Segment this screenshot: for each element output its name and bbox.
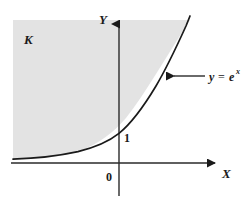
equation-base-e: e: [229, 70, 235, 84]
region-k-fill: [13, 20, 190, 159]
equation-y: y: [207, 70, 215, 84]
y-intercept-label: 1: [124, 131, 130, 145]
region-label-k: K: [23, 32, 34, 47]
equation-equals: =: [218, 70, 225, 84]
y-axis-label: Y: [99, 12, 108, 27]
x-axis-label: X: [221, 166, 231, 181]
shaded-region-k: [13, 20, 190, 159]
math-figure: K Y X 0 1 y = e x: [0, 0, 250, 205]
graph-canvas: K Y X 0 1 y = e x: [0, 0, 250, 205]
origin-label: 0: [106, 170, 112, 184]
equation-exponent-x: x: [235, 67, 240, 76]
curve-equation-label: y = e x: [207, 67, 240, 84]
